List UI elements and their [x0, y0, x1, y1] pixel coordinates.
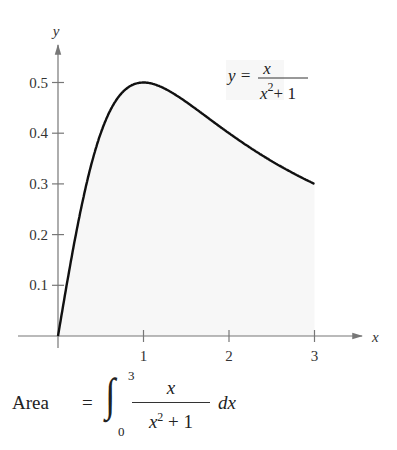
y-axis-ticks: 0.10.20.30.40.5 — [29, 75, 64, 294]
integrand-denominator: x2 + 1 — [132, 405, 210, 434]
x-tick-label: 3 — [311, 348, 319, 364]
fraction-bar — [132, 402, 210, 403]
y-tick-label: 0.1 — [29, 277, 48, 293]
x-tick-label: 2 — [225, 348, 233, 364]
integrand-numerator: x — [132, 376, 210, 400]
integral-lower-limit: 0 — [118, 424, 125, 440]
integrand-fraction: x x2 + 1 — [132, 376, 210, 434]
area-word: Area — [12, 392, 49, 414]
area-integral-formula: Area = ∫ 3 0 x x2 + 1 dx — [12, 372, 312, 450]
y-tick-label: 0.4 — [29, 125, 48, 141]
shaded-area-region — [58, 83, 315, 337]
equals-sign: = — [82, 392, 93, 414]
svg-text:x: x — [262, 59, 271, 78]
x-axis-label: x — [371, 329, 379, 345]
x-tick-label: 1 — [140, 348, 148, 364]
function-equation-label: y = x x2+ 1 — [226, 59, 308, 103]
y-tick-label: 0.5 — [29, 75, 48, 91]
differential: dx — [218, 392, 236, 414]
y-tick-label: 0.3 — [29, 176, 48, 192]
y-tick-label: 0.2 — [29, 227, 48, 243]
integral-sign: ∫ — [105, 372, 115, 418]
y-axis-label: y — [51, 23, 60, 39]
area-under-curve-chart: 123 0.10.20.30.40.5 y x y = x x2+ 1 — [0, 0, 397, 380]
svg-text:y =: y = — [226, 66, 251, 85]
svg-text:x2+ 1: x2+ 1 — [259, 80, 296, 103]
